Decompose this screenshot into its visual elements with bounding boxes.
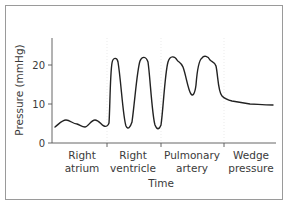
y-tick-label-10: 10 [32, 99, 45, 110]
region-label-right-ventricle: Right ventricle [110, 149, 156, 174]
pressure-waveform [55, 56, 273, 128]
x-axis-label: Time [147, 177, 174, 189]
svg-text:Right: Right [119, 149, 147, 161]
svg-text:atrium: atrium [65, 162, 100, 174]
y-tick-label-0: 0 [39, 138, 45, 149]
svg-text:pressure: pressure [228, 162, 273, 174]
y-ticks [48, 65, 52, 143]
pressure-chart: 0 10 20 Pressure (mmHg) Right atrium Rig… [0, 0, 288, 208]
svg-text:ventricle: ventricle [110, 162, 156, 174]
region-label-right-atrium: Right atrium [65, 149, 100, 174]
svg-text:artery: artery [176, 162, 208, 174]
svg-text:Wedge: Wedge [233, 149, 269, 161]
y-tick-label-20: 20 [32, 60, 45, 71]
svg-text:Pulmonary: Pulmonary [164, 149, 220, 161]
region-label-wedge-pressure: Wedge pressure [228, 149, 273, 174]
region-dividers [107, 38, 224, 143]
svg-text:Right: Right [68, 149, 96, 161]
region-label-pulmonary-artery: Pulmonary artery [164, 149, 220, 174]
y-axis-label: Pressure (mmHg) [13, 44, 25, 135]
x-region-ticks [107, 143, 224, 147]
